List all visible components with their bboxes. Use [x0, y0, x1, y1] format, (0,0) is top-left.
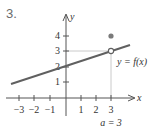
open-point [108, 48, 113, 53]
svg-text:1: 1 [55, 76, 60, 87]
graph-figure: 3. x y −3 −2 −1 1 2 3 [0, 0, 157, 136]
svg-text:2: 2 [94, 104, 99, 115]
x-axis-label: x [136, 92, 142, 103]
svg-text:−3: −3 [14, 104, 25, 115]
svg-text:1: 1 [79, 104, 84, 115]
svg-text:3: 3 [109, 104, 114, 115]
filled-point [108, 33, 113, 38]
svg-text:4: 4 [55, 30, 60, 41]
svg-text:3: 3 [55, 45, 60, 56]
problem-number: 3. [6, 6, 17, 21]
svg-text:−2: −2 [29, 104, 40, 115]
y-axis-label: y [69, 11, 75, 22]
function-graph: x y −3 −2 −1 1 2 3 1 [0, 0, 157, 136]
a-label: a = 3 [100, 117, 122, 128]
y-tick-labels: 1 2 3 4 [55, 30, 60, 87]
x-tick-labels: −3 −2 −1 1 2 3 [14, 104, 114, 115]
curve-label: y = f(x) [116, 56, 148, 68]
svg-text:−1: −1 [45, 104, 56, 115]
